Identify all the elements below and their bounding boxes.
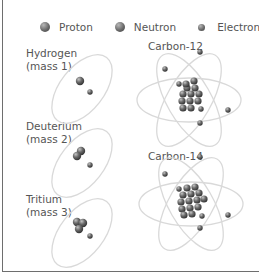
electron-icon: [87, 89, 92, 94]
orbit-icon: [139, 182, 243, 226]
electron-icon: [197, 120, 202, 125]
electron-icon: [225, 107, 230, 112]
electron-icon: [162, 66, 167, 71]
electron-icon: [176, 186, 181, 191]
orbit-icon: [146, 148, 236, 260]
electron-icon: [197, 49, 202, 54]
electron-icon: [162, 171, 167, 176]
electron-icon: [87, 162, 92, 167]
orbit-icon: [40, 188, 124, 278]
electron-icon: [199, 213, 204, 218]
electron-icon: [198, 106, 203, 111]
atom-diagrams: [0, 0, 259, 278]
carbon-12-atom: [137, 44, 241, 156]
tritium-atom: [40, 188, 124, 278]
electron-icon: [225, 212, 230, 217]
hydrogen-atom: [40, 44, 124, 134]
proton-icon: [73, 152, 81, 160]
proton-icon: [76, 77, 84, 85]
orbit-icon: [40, 44, 124, 134]
orbit-icon: [40, 118, 124, 208]
electron-icon: [87, 233, 92, 238]
orbit-icon: [146, 148, 236, 260]
carbon-14-atom: [139, 148, 243, 260]
electron-icon: [176, 81, 181, 86]
deuterium-atom: [40, 118, 124, 208]
proton-icon: [75, 225, 83, 233]
electron-icon: [197, 225, 202, 230]
electron-icon: [197, 154, 202, 159]
